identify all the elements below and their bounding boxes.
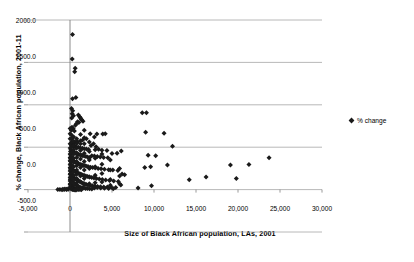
data-point <box>234 176 239 181</box>
data-point <box>146 153 151 158</box>
legend-label: % change <box>357 117 386 124</box>
scatter-chart: % change, Black African population, 2001… <box>0 0 414 262</box>
data-point <box>119 149 124 154</box>
data-point <box>110 151 115 156</box>
data-point <box>162 131 167 136</box>
data-point <box>153 153 158 158</box>
data-point <box>72 69 77 74</box>
legend-marker-icon <box>348 117 355 124</box>
data-point <box>246 162 251 167</box>
data-point <box>142 165 147 170</box>
data-point <box>88 131 93 136</box>
data-point <box>82 128 87 133</box>
data-point <box>144 110 149 115</box>
data-point <box>82 168 87 173</box>
data-point <box>149 183 154 188</box>
plot-area <box>0 0 414 262</box>
legend: % change <box>348 117 386 124</box>
data-point <box>99 162 104 167</box>
data-point <box>104 148 109 153</box>
data-point <box>148 164 153 169</box>
data-points <box>55 32 271 193</box>
data-point <box>165 163 170 168</box>
data-point <box>267 155 272 160</box>
data-point <box>170 144 175 149</box>
data-point <box>78 132 83 137</box>
data-point <box>70 32 75 37</box>
data-point <box>204 175 209 180</box>
data-point <box>143 130 148 135</box>
data-point <box>115 151 120 156</box>
data-point <box>228 163 233 168</box>
data-point <box>102 167 107 172</box>
data-point <box>187 177 192 182</box>
axis-lines <box>24 20 322 232</box>
data-point <box>99 171 104 176</box>
